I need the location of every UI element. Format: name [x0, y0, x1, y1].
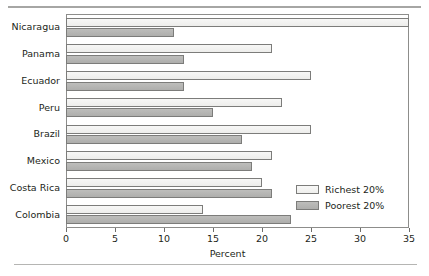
legend-swatch-richest-icon [296, 185, 319, 194]
bar-poorest [66, 189, 272, 198]
bar-richest [66, 205, 203, 214]
bar-richest [66, 44, 272, 53]
bar-group [66, 148, 409, 175]
axis-tick-label: 30 [345, 233, 375, 244]
legend-item-poorest: Poorest 20% [296, 199, 400, 213]
bar-poorest [66, 135, 242, 144]
bar-richest [66, 18, 409, 27]
axis-tick [360, 228, 361, 232]
axis-tick [262, 228, 263, 232]
bar-poorest [66, 28, 174, 37]
axis-tick [409, 228, 410, 232]
category-label: Nicaragua [0, 21, 60, 32]
category-label: Colombia [0, 209, 60, 220]
axis-tick [115, 228, 116, 232]
bar-group [66, 41, 409, 68]
legend-label-richest: Richest 20% [325, 183, 384, 196]
axis-tick [66, 228, 67, 232]
bar-richest [66, 98, 282, 107]
category-label: Costa Rica [0, 182, 60, 193]
category-label: Brazil [0, 128, 60, 139]
chart-figure: NicaraguaPanamaEcuadorPeruBrazilMexicoCo… [0, 0, 429, 276]
bar-group [66, 94, 409, 121]
axis-tick [213, 228, 214, 232]
top-divider-rule [8, 6, 421, 8]
axis-tick-label: 20 [247, 233, 277, 244]
axis-tick-label: 5 [100, 233, 130, 244]
legend-label-poorest: Poorest 20% [325, 199, 384, 212]
x-axis-title-text: Percent [210, 248, 246, 259]
bar-richest [66, 71, 311, 80]
chart-legend: Richest 20% Poorest 20% [296, 183, 400, 218]
x-axis-title: Percent [0, 248, 429, 259]
category-label: Ecuador [0, 75, 60, 86]
axis-tick [311, 228, 312, 232]
legend-swatch-poorest-icon [296, 201, 319, 210]
bar-poorest [66, 55, 184, 64]
axis-tick-label: 35 [394, 233, 424, 244]
bar-richest [66, 125, 311, 134]
category-label: Peru [0, 102, 60, 113]
bar-poorest [66, 108, 213, 117]
bar-richest [66, 178, 262, 187]
axis-tick-label: 25 [296, 233, 326, 244]
category-label: Mexico [0, 155, 60, 166]
axis-tick-label: 10 [149, 233, 179, 244]
bar-richest [66, 151, 272, 160]
category-axis-labels: NicaraguaPanamaEcuadorPeruBrazilMexicoCo… [0, 14, 60, 228]
bar-group [66, 68, 409, 95]
legend-item-richest: Richest 20% [296, 183, 400, 197]
bar-poorest [66, 82, 184, 91]
value-axis: 05101520253035 [66, 228, 409, 248]
bar-poorest [66, 162, 252, 171]
bottom-divider-rule [14, 264, 417, 265]
bar-poorest [66, 215, 291, 224]
bar-group [66, 14, 409, 41]
bar-group [66, 121, 409, 148]
axis-tick-label: 15 [198, 233, 228, 244]
category-label: Panama [0, 48, 60, 59]
axis-tick-label: 0 [51, 233, 81, 244]
axis-tick [164, 228, 165, 232]
